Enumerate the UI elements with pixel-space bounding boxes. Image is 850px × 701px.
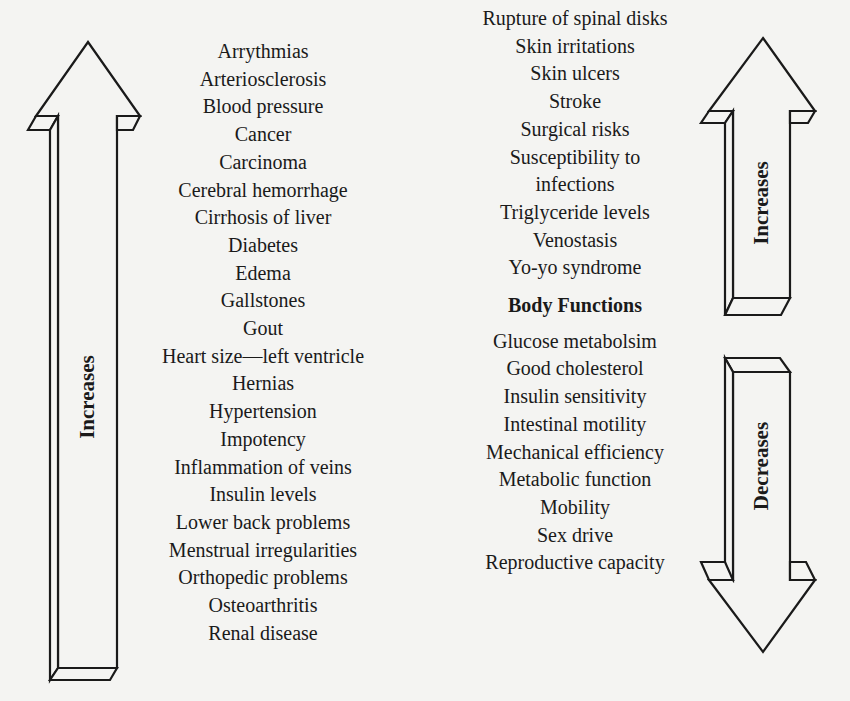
left-arrow-label: Increases <box>75 347 101 447</box>
list-item: Yo-yo syndrome <box>432 254 718 282</box>
list-item: Osteoarthritis <box>132 592 394 620</box>
list-item: Cancer <box>132 121 394 149</box>
list-item: Gout <box>132 315 394 343</box>
list-item: Insulin levels <box>132 481 394 509</box>
list-item: Hypertension <box>132 398 394 426</box>
list-item: Skin irritations <box>432 33 718 61</box>
right-top-arrow-label: Increases <box>749 153 775 253</box>
list-item: Skin ulcers <box>432 60 718 88</box>
list-item: Carcinoma <box>132 149 394 177</box>
list-item: Intestinal motility <box>432 411 718 439</box>
list-item: Mobility <box>432 494 718 522</box>
list-item: Cirrhosis of liver <box>132 204 394 232</box>
list-item: Glucose metabolsim <box>432 328 718 356</box>
list-item: infections <box>432 171 718 199</box>
right-condition-list: Rupture of spinal disks Skin irritations… <box>432 5 718 577</box>
list-item: Sex drive <box>432 522 718 550</box>
list-item: Heart size—left ventricle <box>132 343 394 371</box>
right-bottom-arrow-label: Decreases <box>749 416 775 516</box>
list-item: Hernias <box>132 370 394 398</box>
list-item: Reproductive capacity <box>432 549 718 577</box>
list-item: Gallstones <box>132 287 394 315</box>
list-item: Renal disease <box>132 620 394 648</box>
list-item: Impotency <box>132 426 394 454</box>
arrows-layer <box>0 0 850 701</box>
list-item: Lower back problems <box>132 509 394 537</box>
list-item: Edema <box>132 260 394 288</box>
list-item: Metabolic function <box>432 466 718 494</box>
list-item: Mechanical efficiency <box>432 439 718 467</box>
list-item: Insulin sensitivity <box>432 383 718 411</box>
list-item: Triglyceride levels <box>432 199 718 227</box>
left-condition-list: Arrythmias Arteriosclerosis Blood pressu… <box>132 38 394 647</box>
list-item: Orthopedic problems <box>132 564 394 592</box>
list-item: Diabetes <box>132 232 394 260</box>
list-item: Good cholesterol <box>432 355 718 383</box>
section-title-body-functions: Body Functions <box>432 292 718 320</box>
list-item: Venostasis <box>432 227 718 255</box>
diagram: Increases Increases Decreases Arrythmias… <box>0 0 850 701</box>
list-item: Blood pressure <box>132 93 394 121</box>
list-item: Stroke <box>432 88 718 116</box>
list-item: Surgical risks <box>432 116 718 144</box>
list-item: Rupture of spinal disks <box>432 5 718 33</box>
list-item: Inflammation of veins <box>132 454 394 482</box>
list-item: Menstrual irregularities <box>132 537 394 565</box>
list-item: Susceptibility to <box>432 144 718 172</box>
list-item: Arrythmias <box>132 38 394 66</box>
list-item: Cerebral hemorrhage <box>132 177 394 205</box>
list-item: Arteriosclerosis <box>132 66 394 94</box>
